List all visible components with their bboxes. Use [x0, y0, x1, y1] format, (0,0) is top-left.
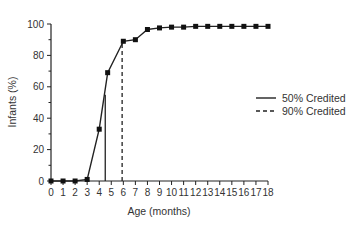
- data-point-marker: [217, 24, 222, 29]
- x-tick-label: 9: [157, 187, 163, 198]
- x-tick-label: 14: [214, 187, 226, 198]
- x-tick-label: 2: [72, 187, 78, 198]
- data-point-marker: [205, 24, 210, 29]
- data-point-marker: [61, 179, 66, 184]
- legend-label: 50% Credited: [282, 92, 346, 104]
- data-point-marker: [49, 179, 54, 184]
- x-tick-label: 13: [202, 187, 214, 198]
- x-tick-label: 17: [250, 187, 262, 198]
- legend-label: 90% Credited: [282, 105, 346, 117]
- x-tick-label: 11: [178, 187, 189, 198]
- x-tick-label: 10: [166, 187, 178, 198]
- x-tick-label: 3: [84, 187, 90, 198]
- x-tick-label: 12: [190, 187, 202, 198]
- y-axis: 020406080100: [27, 19, 51, 187]
- x-tick-label: 18: [262, 187, 274, 198]
- x-tick-label: 15: [226, 187, 238, 198]
- data-series: [49, 24, 271, 184]
- data-point-marker: [121, 39, 126, 44]
- y-tick-label: 60: [33, 81, 45, 92]
- x-tick-label: 5: [108, 187, 114, 198]
- series-line: [51, 26, 268, 181]
- reference-lines: [105, 41, 122, 181]
- x-tick-label: 16: [238, 187, 250, 198]
- data-point-marker: [85, 177, 90, 182]
- data-point-marker: [253, 24, 258, 29]
- x-tick-label: 7: [133, 187, 139, 198]
- data-point-marker: [133, 37, 138, 42]
- data-point-marker: [157, 25, 162, 30]
- legend: 50% Credited90% Credited: [256, 92, 346, 117]
- y-tick-label: 40: [33, 113, 45, 124]
- x-tick-label: 0: [48, 187, 54, 198]
- chart: 020406080100 012345678910111213141516171…: [0, 0, 359, 226]
- data-point-marker: [229, 24, 234, 29]
- x-tick-label: 6: [121, 187, 127, 198]
- data-point-marker: [145, 27, 150, 32]
- x-tick-label: 4: [96, 187, 102, 198]
- x-axis-label: Age (months): [127, 205, 190, 217]
- x-tick-label: 8: [145, 187, 151, 198]
- data-point-marker: [97, 127, 102, 132]
- x-tick-label: 1: [60, 187, 66, 198]
- data-point-marker: [169, 25, 174, 30]
- data-point-marker: [73, 179, 78, 184]
- y-tick-label: 100: [27, 19, 44, 30]
- y-tick-label: 80: [33, 50, 45, 61]
- data-point-marker: [266, 24, 271, 29]
- data-point-marker: [241, 24, 246, 29]
- y-tick-label: 0: [38, 176, 44, 187]
- data-point-marker: [105, 70, 110, 75]
- data-point-marker: [181, 25, 186, 30]
- x-axis: 0123456789101112131415161718: [48, 181, 274, 198]
- y-axis-label: Infants (%): [6, 77, 18, 128]
- y-tick-label: 20: [33, 144, 45, 155]
- data-point-marker: [193, 24, 198, 29]
